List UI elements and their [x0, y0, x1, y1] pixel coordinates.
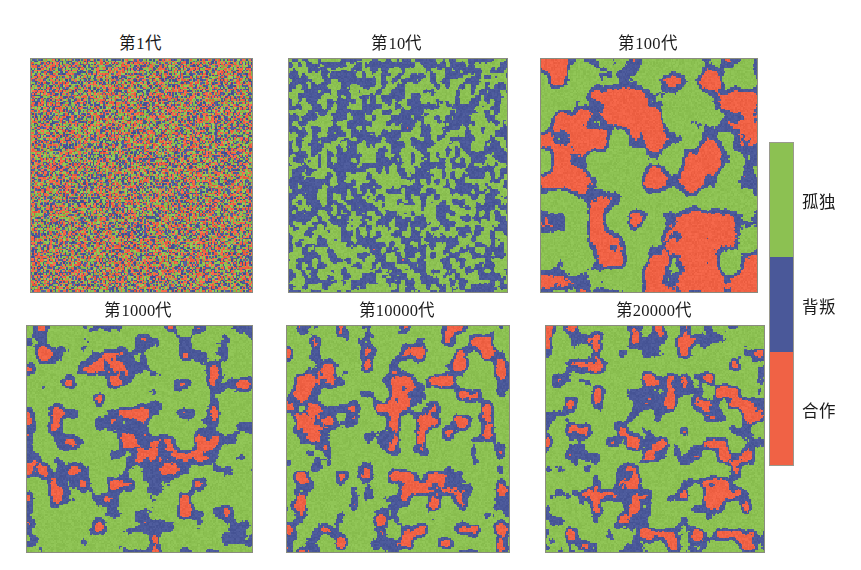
strategy-colorbar: [769, 142, 794, 466]
panel-gen-10: 第10代: [0, 0, 861, 570]
panel-gen-1: 第1代: [0, 0, 861, 570]
lattice-canvas-gen-10: [289, 59, 507, 292]
legend-band-loner: [770, 143, 793, 257]
panel-gen-100: 第100代: [0, 0, 861, 570]
lattice-gen-1: [30, 58, 253, 293]
legend-band-defect: [770, 257, 793, 352]
lattice-gen-10000: [286, 325, 510, 553]
panel-title-gen-20000: 第20000代: [545, 297, 763, 321]
legend-label-defect: 背叛: [802, 294, 836, 318]
panel-title-gen-1: 第1代: [30, 30, 251, 54]
lattice-canvas-gen-100: [541, 59, 757, 292]
lattice-gen-100: [540, 58, 758, 293]
panel-title-gen-10000: 第10000代: [286, 297, 508, 321]
panel-title-gen-1000: 第1000代: [26, 297, 251, 321]
panel-gen-10000: 第10000代: [0, 0, 861, 570]
legend-band-cooperate: [770, 352, 793, 465]
lattice-canvas-gen-1: [31, 59, 252, 292]
panel-title-gen-100: 第100代: [540, 30, 756, 54]
lattice-gen-1000: [26, 325, 253, 553]
lattice-canvas-gen-1000: [27, 326, 252, 552]
lattice-gen-10: [288, 58, 508, 293]
panel-title-gen-10: 第10代: [288, 30, 506, 54]
legend-label-loner: 孤独: [802, 189, 836, 213]
lattice-canvas-gen-20000: [546, 326, 764, 552]
panel-gen-1000: 第1000代: [0, 0, 861, 570]
panel-gen-20000: 第20000代: [0, 0, 861, 570]
legend-label-cooperate: 合作: [802, 398, 836, 422]
lattice-canvas-gen-10000: [287, 326, 509, 552]
figure-root: 第1代第10代第100代第1000代第10000代第20000代 孤独背叛合作: [0, 0, 861, 570]
lattice-gen-20000: [545, 325, 765, 553]
